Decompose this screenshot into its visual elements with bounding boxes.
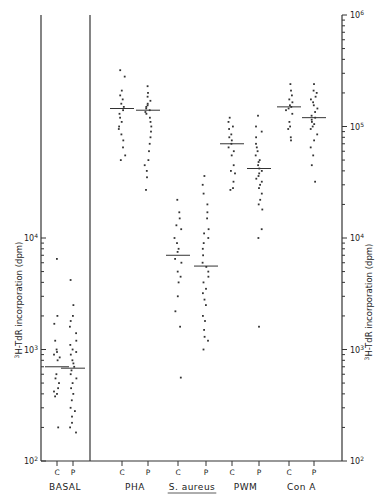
- group-label: Con A: [287, 482, 316, 492]
- data-point: [121, 121, 123, 123]
- data-point: [205, 288, 207, 290]
- data-point: [69, 427, 71, 429]
- subgroup-label: C: [229, 468, 234, 477]
- data-point: [288, 108, 290, 110]
- data-point: [232, 126, 234, 128]
- data-point: [228, 121, 230, 123]
- data-point: [55, 378, 57, 380]
- subgroup-label: P: [257, 468, 262, 477]
- subgroup-label: C: [54, 468, 59, 477]
- data-point: [228, 128, 230, 130]
- data-point: [259, 184, 261, 186]
- subgroup-label: P: [71, 468, 76, 477]
- data-point: [72, 393, 74, 395]
- data-point: [257, 115, 259, 117]
- data-point: [231, 155, 233, 157]
- data-point: [178, 282, 180, 284]
- data-point: [120, 159, 122, 161]
- data-point: [73, 366, 75, 368]
- subgroup-label: C: [286, 468, 291, 477]
- data-point: [256, 147, 258, 149]
- data-point: [119, 117, 121, 119]
- data-point: [313, 104, 315, 106]
- data-point: [204, 336, 206, 338]
- data-point: [258, 326, 260, 328]
- group-label: BASAL: [49, 482, 81, 492]
- right-tick-label: 102: [350, 455, 364, 466]
- data-point: [228, 147, 230, 149]
- data-point: [150, 131, 152, 133]
- data-point: [57, 315, 59, 317]
- data-point: [179, 218, 181, 220]
- data-point: [144, 164, 146, 166]
- data-point: [70, 279, 72, 281]
- data-point: [289, 121, 291, 123]
- group-s-aureus: CPS. aureus: [166, 175, 218, 493]
- data-point: [176, 199, 178, 201]
- data-point: [122, 140, 124, 142]
- data-point: [56, 351, 58, 353]
- data-point: [177, 251, 179, 253]
- data-point: [69, 326, 71, 328]
- data-point: [202, 262, 204, 264]
- data-point: [59, 357, 61, 359]
- data-point: [261, 193, 263, 195]
- data-point: [255, 126, 257, 128]
- data-point: [175, 310, 177, 312]
- data-point: [119, 69, 121, 71]
- data-point: [119, 95, 121, 97]
- data-point: [203, 282, 205, 284]
- data-point: [255, 143, 257, 145]
- data-point: [174, 237, 176, 239]
- data-point: [122, 109, 124, 111]
- right-tick-label: 104: [350, 232, 364, 243]
- data-point: [57, 427, 59, 429]
- data-point: [178, 211, 180, 213]
- data-point: [57, 387, 59, 389]
- data-point: [145, 106, 147, 108]
- data-point: [261, 209, 263, 211]
- data-point: [207, 340, 209, 342]
- data-point: [123, 106, 125, 108]
- data-point: [146, 113, 148, 115]
- data-point: [147, 96, 149, 98]
- data-point: [178, 248, 180, 250]
- data-point: [233, 164, 235, 166]
- data-point: [75, 332, 77, 334]
- data-point: [75, 340, 77, 342]
- data-point: [54, 396, 56, 398]
- data-point: [177, 295, 179, 297]
- data-point: [147, 85, 149, 87]
- data-point: [312, 155, 314, 157]
- data-point: [150, 100, 152, 102]
- left-tick-label: 104: [24, 232, 38, 243]
- data-point: [291, 113, 293, 115]
- left-tick-label: 103: [24, 344, 38, 355]
- data-point: [72, 315, 74, 317]
- data-point: [230, 170, 232, 172]
- data-point: [146, 170, 148, 172]
- data-point: [202, 292, 204, 294]
- subgroup-label: P: [312, 468, 317, 477]
- data-point: [146, 176, 148, 178]
- right-tick-label: 103: [350, 344, 364, 355]
- data-point: [289, 104, 291, 106]
- data-point: [176, 242, 178, 244]
- data-point: [259, 159, 261, 161]
- data-point: [208, 276, 210, 278]
- data-point: [180, 276, 182, 278]
- data-point: [292, 101, 294, 103]
- left-tick-label: 102: [24, 455, 38, 466]
- data-point: [149, 143, 151, 145]
- data-point: [181, 262, 183, 264]
- data-point: [204, 299, 206, 301]
- right-tick-label: 106: [350, 9, 364, 20]
- group-label: PHA: [125, 482, 145, 492]
- data-point: [259, 199, 261, 201]
- data-point: [73, 304, 75, 306]
- group-label: PWM: [234, 482, 258, 492]
- data-point: [314, 111, 316, 113]
- data-point: [258, 237, 260, 239]
- group-label: S. aureus: [169, 482, 216, 492]
- data-point: [203, 242, 205, 244]
